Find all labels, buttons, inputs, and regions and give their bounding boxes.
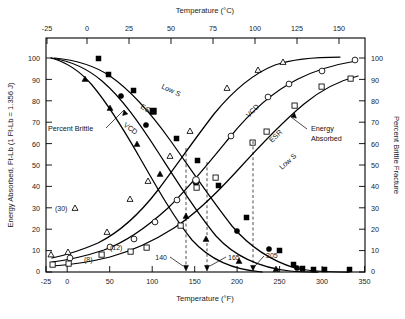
top-tick-label: 150	[333, 24, 345, 33]
bottom-tick-label: 0	[65, 277, 69, 286]
bottom-tick-label: 300	[316, 277, 328, 286]
transition-marker-205: 205	[251, 141, 278, 271]
note-8: (8)	[84, 256, 93, 264]
series-low-s-energy: Low S	[50, 76, 358, 267]
bottom-tick-label: 50	[106, 277, 114, 286]
left-axis-title: Energy Absorbed, Ft-Lb (1 Ft-Lb = 1.356 …	[6, 82, 15, 227]
markers-vcd-brittle	[82, 76, 279, 271]
bottom-tick-label: 150	[189, 277, 201, 286]
left-tick-label: 30	[32, 204, 40, 213]
energy-absorbed-label-line2: Absorbed	[311, 134, 342, 143]
transition-label-205: 205	[266, 252, 278, 259]
left-tick-label: 60	[32, 140, 40, 149]
bottom-tick-label: 100	[146, 277, 158, 286]
series-low-s-brittle: Low S	[55, 56, 353, 272]
left-tick-label: 50	[32, 161, 40, 170]
top-tick-label: 100	[249, 24, 261, 33]
note-12: (12)	[110, 244, 122, 252]
left-axis-ticklabels: 0 10 20 30 40 50 60 70 80 90 100	[28, 54, 40, 276]
right-tick-label: 70	[371, 118, 379, 127]
top-tick-label: 0	[85, 24, 89, 33]
left-tick-label: 80	[32, 97, 40, 106]
left-tick-label: 20	[32, 225, 40, 234]
left-tick-label: 10	[32, 246, 40, 255]
top-tick-label: -25	[42, 24, 52, 33]
bottom-tick-label: -25	[41, 277, 51, 286]
left-axis-ticks	[46, 58, 52, 272]
chart-figure: Temperature (°C) -25 0 25 50 75 100 125 …	[0, 0, 405, 319]
left-tick-label: 70	[32, 118, 40, 127]
top-axis-ticks	[47, 38, 339, 44]
curve-label-low-s-energy: Low S	[277, 151, 298, 171]
bottom-tick-label: 200	[231, 277, 243, 286]
top-tick-label: 75	[209, 24, 217, 33]
charpy-transition-chart: Temperature (°C) -25 0 25 50 75 100 125 …	[0, 0, 405, 319]
curve-label-low-s-brittle: Low S	[160, 82, 182, 99]
left-tick-label: 0	[36, 267, 40, 276]
left-tick-label: 90	[32, 76, 40, 85]
right-tick-label: 30	[371, 204, 379, 213]
bottom-tick-label: 250	[274, 277, 286, 286]
right-tick-label: 40	[371, 182, 379, 191]
right-tick-label: 10	[371, 246, 379, 255]
top-axis-title: Temperature (°C)	[176, 6, 235, 15]
right-tick-label: 80	[371, 97, 379, 106]
bottom-axis-title: Temperature (°F)	[176, 294, 234, 303]
transition-label-140: 140	[155, 254, 167, 261]
right-tick-label: 100	[371, 54, 383, 63]
transition-label-165: 165	[228, 254, 240, 261]
top-axis-ticklabels: -25 0 25 50 75 100 125 150	[42, 24, 345, 33]
energy-absorbed-annotation: Energy Absorbed	[291, 113, 342, 143]
left-tick-label: 100	[28, 54, 40, 63]
percent-brittle-annotation: Percent Brittle	[48, 110, 128, 133]
right-tick-label: 60	[371, 140, 379, 149]
right-tick-label: 0	[371, 267, 375, 276]
right-tick-label: 90	[371, 76, 379, 85]
right-axis-ticklabels: 0 10 20 30 40 50 60 70 80 90 100	[371, 54, 383, 276]
right-axis-ticks	[359, 58, 365, 272]
energy-absorbed-label-line1: Energy	[311, 124, 334, 133]
right-tick-label: 50	[371, 161, 379, 170]
curve-label-vcd-brittle: VCD	[122, 120, 140, 136]
right-axis-title: Percent Brittle Fracture	[392, 116, 401, 194]
note-30: (30)	[55, 205, 67, 213]
top-tick-label: 125	[291, 24, 303, 33]
top-tick-label: 50	[167, 24, 175, 33]
percent-brittle-label: Percent Brittle	[48, 124, 93, 133]
curve-label-esr-brittle: ESR	[139, 102, 156, 117]
bottom-tick-label: 350	[359, 277, 371, 286]
bottom-axis-ticklabels: -25 0 50 100 150 200 250 300 350	[41, 277, 371, 286]
top-tick-label: 25	[125, 24, 133, 33]
transition-marker-140: 140	[155, 148, 188, 271]
curve-label-vcd-energy: VCD	[244, 102, 261, 119]
right-tick-label: 20	[371, 225, 379, 234]
left-tick-label: 40	[32, 182, 40, 191]
series-esr-energy: ESR	[52, 57, 358, 262]
